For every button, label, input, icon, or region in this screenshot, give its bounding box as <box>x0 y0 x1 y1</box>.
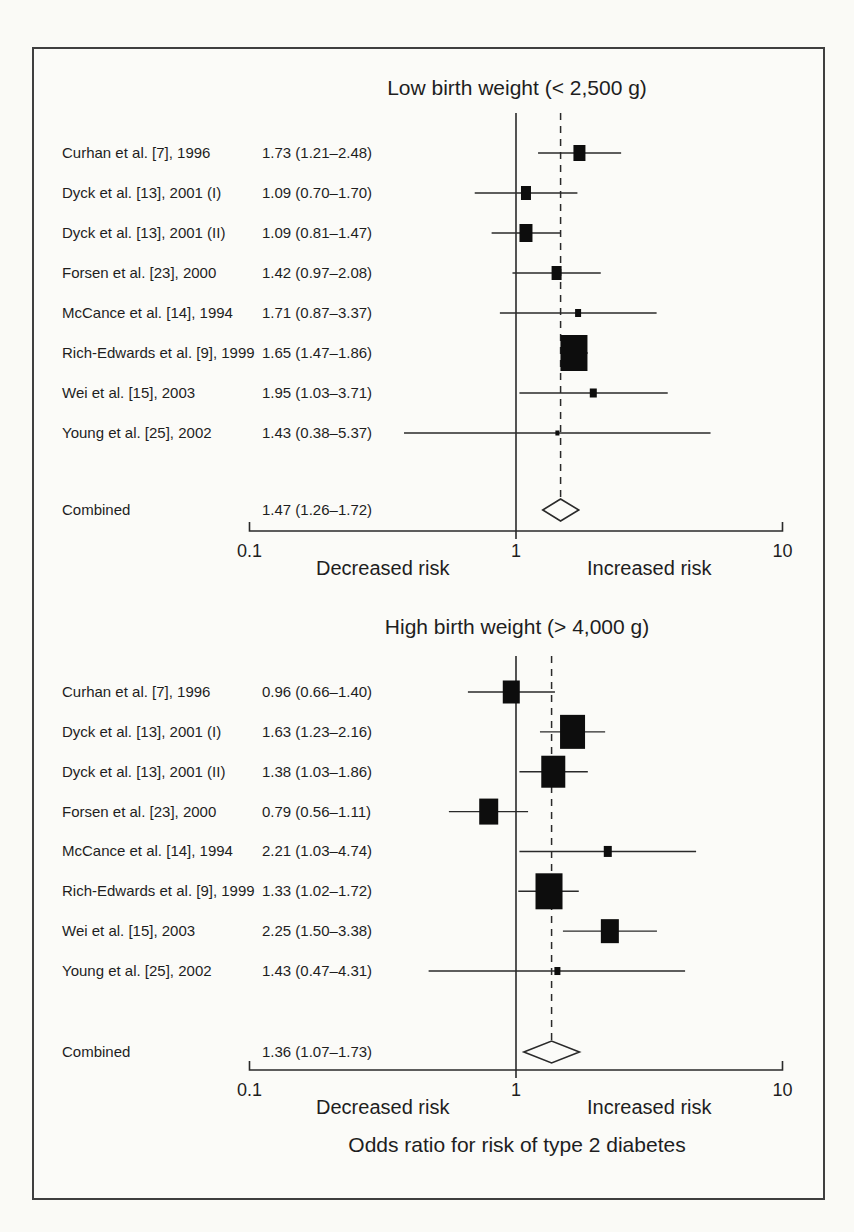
study-row: Young et al. [25], 20021.43 (0.38–5.37) <box>62 424 711 441</box>
or-marker <box>560 715 585 749</box>
study-row: McCance et al. [14], 19941.71 (0.87–3.37… <box>62 304 657 321</box>
estimate-text: 1.65 (1.47–1.86) <box>262 344 372 361</box>
study-row: McCance et al. [14], 19942.21 (1.03–4.74… <box>62 842 696 859</box>
or-marker <box>590 389 597 398</box>
or-marker <box>521 186 531 200</box>
estimate-text: 1.33 (1.02–1.72) <box>262 882 372 899</box>
study-row: Dyck et al. [13], 2001 (II)1.38 (1.03–1.… <box>62 756 588 788</box>
or-marker <box>560 335 587 371</box>
forest-panel: High birth weight (> 4,000 g)Curhan et a… <box>62 615 793 1156</box>
combined-diamond <box>543 499 579 521</box>
estimate-text: 1.38 (1.03–1.86) <box>262 763 372 780</box>
combined-estimate-text: 1.36 (1.07–1.73) <box>262 1043 372 1060</box>
x-axis-tick-label: 1 <box>511 1080 521 1100</box>
combined-label: Combined <box>62 501 130 518</box>
estimate-text: 0.96 (0.66–1.40) <box>262 683 372 700</box>
combined-label: Combined <box>62 1043 130 1060</box>
or-marker <box>575 309 581 317</box>
forest-panel: Low birth weight (< 2,500 g)Curhan et al… <box>62 76 793 579</box>
estimate-text: 1.43 (0.38–5.37) <box>262 424 372 441</box>
panel-title: High birth weight (> 4,000 g) <box>385 615 649 638</box>
or-marker <box>541 756 565 788</box>
study-label: Forsen et al. [23], 2000 <box>62 803 216 820</box>
estimate-text: 1.95 (1.03–3.71) <box>262 384 372 401</box>
combined-diamond <box>524 1041 580 1063</box>
combined-estimate-text: 1.47 (1.26–1.72) <box>262 501 372 518</box>
decreased-risk-label: Decreased risk <box>316 1096 450 1118</box>
x-axis-tick-label: 1 <box>511 541 521 561</box>
or-marker <box>519 224 532 242</box>
or-marker <box>601 919 619 943</box>
study-row: Dyck et al. [13], 2001 (II)1.09 (0.81–1.… <box>62 224 561 242</box>
estimate-text: 1.09 (0.70–1.70) <box>262 184 372 201</box>
study-label: Forsen et al. [23], 2000 <box>62 264 216 281</box>
x-axis-tick-label: 0.1 <box>237 541 262 561</box>
estimate-text: 1.09 (0.81–1.47) <box>262 224 372 241</box>
study-row: Forsen et al. [23], 20001.42 (0.97–2.08) <box>62 264 601 281</box>
estimate-text: 1.43 (0.47–4.31) <box>262 962 372 979</box>
study-label: Wei et al. [15], 2003 <box>62 922 195 939</box>
study-row: Rich-Edwards et al. [9], 19991.33 (1.02–… <box>62 873 579 909</box>
study-label: Wei et al. [15], 2003 <box>62 384 195 401</box>
study-label: Dyck et al. [13], 2001 (II) <box>62 224 225 241</box>
x-axis-title: Odds ratio for risk of type 2 diabetes <box>348 1133 685 1156</box>
estimate-text: 1.73 (1.21–2.48) <box>262 144 372 161</box>
or-marker <box>604 846 612 857</box>
forest-plot-canvas: Low birth weight (< 2,500 g)Curhan et al… <box>0 0 854 1232</box>
or-marker <box>555 431 559 436</box>
study-label: McCance et al. [14], 1994 <box>62 842 233 859</box>
decreased-risk-label: Decreased risk <box>316 557 450 579</box>
or-marker <box>552 266 562 280</box>
study-row: Dyck et al. [13], 2001 (I)1.63 (1.23–2.1… <box>62 715 605 749</box>
panel-title: Low birth weight (< 2,500 g) <box>387 76 647 99</box>
or-marker <box>503 681 520 704</box>
study-label: Curhan et al. [7], 1996 <box>62 683 210 700</box>
study-row: Forsen et al. [23], 20000.79 (0.56–1.11) <box>62 799 528 825</box>
study-row: Curhan et al. [7], 19961.73 (1.21–2.48) <box>62 144 621 161</box>
estimate-text: 0.79 (0.56–1.11) <box>262 803 371 820</box>
or-marker <box>573 145 585 161</box>
study-row: Wei et al. [15], 20032.25 (1.50–3.38) <box>62 919 657 943</box>
study-label: Young et al. [25], 2002 <box>62 962 212 979</box>
study-row: Young et al. [25], 20021.43 (0.47–4.31) <box>62 962 685 979</box>
estimate-text: 1.63 (1.23–2.16) <box>262 723 372 740</box>
combined-row: Combined1.47 (1.26–1.72) <box>62 499 579 521</box>
study-row: Rich-Edwards et al. [9], 19991.65 (1.47–… <box>62 335 588 371</box>
x-axis-tick-label: 10 <box>772 541 792 561</box>
estimate-text: 1.71 (0.87–3.37) <box>262 304 372 321</box>
study-label: Dyck et al. [13], 2001 (I) <box>62 184 221 201</box>
combined-row: Combined1.36 (1.07–1.73) <box>62 1041 579 1063</box>
study-label: McCance et al. [14], 1994 <box>62 304 233 321</box>
x-axis-tick-label: 10 <box>772 1080 792 1100</box>
or-marker <box>479 799 498 825</box>
estimate-text: 2.25 (1.50–3.38) <box>262 922 372 939</box>
estimate-text: 1.42 (0.97–2.08) <box>262 264 372 281</box>
study-label: Rich-Edwards et al. [9], 1999 <box>62 344 255 361</box>
study-label: Dyck et al. [13], 2001 (I) <box>62 723 221 740</box>
increased-risk-label: Increased risk <box>587 557 712 579</box>
study-row: Wei et al. [15], 20031.95 (1.03–3.71) <box>62 384 668 401</box>
x-axis-tick-label: 0.1 <box>237 1080 262 1100</box>
or-marker <box>554 967 560 975</box>
or-marker <box>536 873 563 909</box>
study-label: Curhan et al. [7], 1996 <box>62 144 210 161</box>
study-label: Young et al. [25], 2002 <box>62 424 212 441</box>
study-row: Dyck et al. [13], 2001 (I)1.09 (0.70–1.7… <box>62 184 577 201</box>
study-label: Dyck et al. [13], 2001 (II) <box>62 763 225 780</box>
increased-risk-label: Increased risk <box>587 1096 712 1118</box>
estimate-text: 2.21 (1.03–4.74) <box>262 842 372 859</box>
study-row: Curhan et al. [7], 19960.96 (0.66–1.40) <box>62 681 555 704</box>
study-label: Rich-Edwards et al. [9], 1999 <box>62 882 255 899</box>
